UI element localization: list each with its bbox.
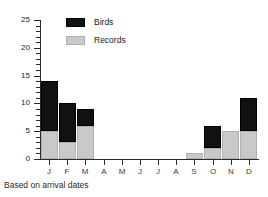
bar-m-2	[77, 109, 94, 159]
x-axis-tick	[140, 160, 141, 165]
y-axis-tick-label: 5	[8, 127, 30, 135]
x-axis-label-8: S	[185, 167, 203, 176]
x-axis-tick	[249, 160, 250, 165]
bar-segment-records	[240, 131, 257, 159]
x-axis-tick	[231, 160, 232, 165]
x-axis-label-7: A	[167, 167, 185, 176]
x-axis-label-11: D	[240, 167, 258, 176]
bar-segment-records	[222, 131, 239, 159]
x-axis-tick	[122, 160, 123, 165]
x-axis-tick	[213, 160, 214, 165]
x-axis-label-3: A	[95, 167, 113, 176]
x-axis-label-9: O	[204, 167, 222, 176]
legend-label-records: Records	[94, 36, 126, 45]
bar-segment-records	[77, 126, 94, 159]
x-axis-label-2: M	[76, 167, 94, 176]
bar-d-11	[240, 98, 257, 159]
x-axis-label-6: J	[149, 167, 167, 176]
x-axis-label-10: N	[222, 167, 240, 176]
y-axis-tick-label: 10	[8, 99, 30, 107]
chart-caption: Based on arrival dates	[4, 180, 89, 190]
y-axis-tick-label: 25	[8, 16, 30, 24]
legend: Birds Records	[66, 16, 126, 52]
x-axis-label-1: F	[58, 167, 76, 176]
x-axis-tick	[85, 160, 86, 165]
legend-item-birds: Birds	[66, 16, 126, 29]
bar-segment-records	[59, 142, 76, 159]
bar-n-10	[222, 131, 239, 159]
x-axis-label-0: J	[40, 167, 58, 176]
bar-segment-records	[186, 153, 203, 159]
x-axis-tick	[158, 160, 159, 165]
bar-segment-birds	[41, 81, 58, 131]
bar-chart: 0510152025 JFMAMJJASOND Birds Records Ba…	[0, 0, 268, 197]
legend-label-birds: Birds	[94, 18, 113, 27]
x-axis-tick	[67, 160, 68, 165]
x-axis-tick	[194, 160, 195, 165]
x-axis-tick	[176, 160, 177, 165]
x-axis-line	[40, 159, 259, 160]
bar-segment-birds	[204, 126, 221, 148]
bar-f-1	[59, 103, 76, 159]
x-axis-tick	[49, 160, 50, 165]
bar-segment-records	[41, 131, 58, 159]
legend-swatch-birds-icon	[66, 18, 85, 27]
y-axis-tick-label: 15	[8, 72, 30, 80]
bar-j-0	[41, 81, 58, 159]
bar-o-9	[204, 126, 221, 159]
y-axis-tick	[34, 159, 40, 160]
legend-item-records: Records	[66, 34, 126, 47]
bar-segment-birds	[59, 103, 76, 142]
bar-segment-birds	[240, 98, 257, 131]
bar-s-8	[186, 153, 203, 159]
y-axis-tick-label: 0	[8, 155, 30, 163]
bar-segment-records	[204, 148, 221, 159]
x-axis-tick	[104, 160, 105, 165]
x-axis-label-4: M	[113, 167, 131, 176]
y-axis-tick-label: 20	[8, 44, 30, 52]
x-axis-label-5: J	[131, 167, 149, 176]
bar-segment-birds	[77, 109, 94, 126]
legend-swatch-records-icon	[66, 36, 85, 45]
